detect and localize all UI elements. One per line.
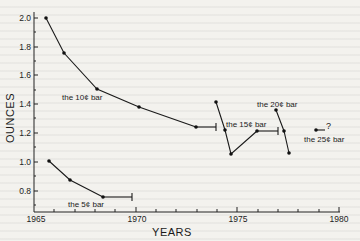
series-labels: the 10¢ bar the 15¢ bar the 20¢ bar the …	[62, 93, 345, 209]
y-tick-label: 1.2	[19, 128, 31, 138]
axes	[34, 12, 340, 212]
data-point	[44, 16, 48, 20]
series-label-10c: the 10¢ bar	[62, 93, 103, 102]
y-tick-label: 1.0	[19, 157, 31, 167]
data-point	[194, 125, 198, 129]
data-point	[68, 178, 72, 182]
y-tick-label: 1.8	[19, 42, 31, 52]
x-tick-labels: 1965 1970 1975 1980	[27, 214, 349, 224]
series-label-25c: the 25¢ bar	[304, 135, 345, 144]
series-lines	[46, 18, 325, 201]
data-point	[47, 159, 51, 163]
data-point	[62, 51, 66, 55]
data-point	[287, 151, 291, 155]
data-point	[282, 129, 286, 133]
data-point	[229, 152, 233, 156]
y-tick-label: 1.6	[19, 70, 31, 80]
x-tick-label: 1965	[27, 214, 46, 224]
series-10c-line	[46, 18, 196, 127]
data-point	[214, 100, 218, 104]
series-label-15c: the 15¢ bar	[226, 120, 267, 129]
x-axis-title: YEARS	[152, 226, 192, 238]
x-tick-label: 1970	[128, 214, 147, 224]
series-5c-line	[49, 161, 103, 197]
series-label-20c: the 20¢ bar	[257, 100, 298, 109]
y-tick-label: 2.0	[19, 13, 31, 23]
y-tick-labels: 2.0 1.8 1.6 1.4 1.2 1.0 0.8	[19, 13, 31, 196]
data-point	[255, 129, 259, 133]
data-point	[101, 195, 105, 199]
y-tick-label: 1.4	[19, 99, 31, 109]
x-tick-label: 1980	[330, 214, 349, 224]
unknown-annotation: ?	[326, 121, 331, 131]
data-point	[314, 128, 318, 132]
chart-container: 2.0 1.8 1.6 1.4 1.2 1.0 0.8 1965 1970 19…	[0, 0, 360, 241]
y-axis-title: OUNCES	[4, 93, 16, 143]
data-point	[137, 105, 141, 109]
x-tick-label: 1975	[229, 214, 248, 224]
series-label-5c: the 5¢ bar	[68, 200, 104, 209]
chart-svg: 2.0 1.8 1.6 1.4 1.2 1.0 0.8 1965 1970 19…	[0, 0, 360, 241]
data-point	[95, 87, 99, 91]
y-tick-label: 0.8	[19, 186, 31, 196]
